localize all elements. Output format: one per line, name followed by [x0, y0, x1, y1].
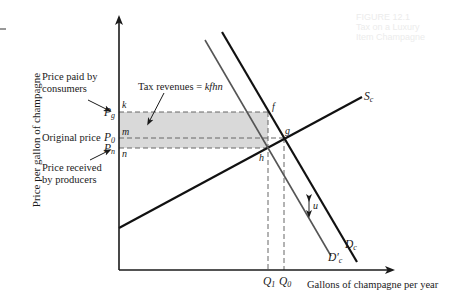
- curve-label-dc: Dc: [345, 238, 357, 254]
- diagram-canvas: [0, 0, 456, 300]
- pn-sub: n: [111, 147, 115, 156]
- dc-sub: c: [353, 243, 357, 252]
- q1-sub: 1: [271, 280, 275, 289]
- point-n: n: [122, 149, 127, 159]
- price-tick-pg: Pg: [104, 106, 115, 122]
- point-f: f: [272, 102, 275, 112]
- q0-sub: 0: [287, 280, 291, 289]
- tax-revenue-prefix: Tax revenues =: [138, 81, 205, 92]
- price-received-line-1: Price received: [42, 162, 102, 174]
- x-axis-label: Gallons of champagne per year: [307, 279, 438, 291]
- price-paid-line-2: consumers: [42, 83, 97, 95]
- quantity-tick-q1: Q1: [263, 275, 275, 291]
- sc-sub: c: [370, 95, 374, 104]
- tax-revenue-area: [119, 112, 268, 148]
- price-received-line-2: by producers: [42, 174, 102, 186]
- original-price-annotation: Original price: [42, 132, 101, 144]
- tax-wedge-label: u: [313, 201, 318, 211]
- pg-sub: g: [111, 111, 115, 120]
- curve-label-sc: Sc: [364, 90, 373, 106]
- y-axis-label: Price per gallon of champagne: [30, 70, 42, 210]
- quantity-tick-q0: Q0: [279, 275, 291, 291]
- point-g: g: [285, 126, 290, 136]
- point-k: k: [122, 100, 126, 110]
- point-m: m: [122, 127, 129, 137]
- dcp-sub: c: [339, 256, 343, 265]
- price-paid-line-1: Price paid by: [42, 71, 97, 83]
- curve-label-dc-prime: D′c: [328, 251, 342, 267]
- price-paid-annotation: Price paid by consumers: [42, 71, 97, 95]
- tax-revenue-area-label: kfhn: [205, 81, 223, 92]
- point-h: h: [259, 153, 264, 163]
- price-tick-pn: Pn: [104, 142, 115, 158]
- pg-symbol: P: [104, 106, 111, 118]
- tax-revenue-label: Tax revenues = kfhn: [138, 81, 223, 93]
- price-received-annotation: Price received by producers: [42, 162, 102, 186]
- pn-symbol: P: [104, 142, 111, 154]
